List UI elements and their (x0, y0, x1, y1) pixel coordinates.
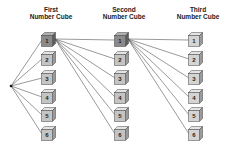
cube-3-4: 4 (189, 90, 203, 104)
branch-line (11, 86, 42, 115)
branch-line (128, 39, 189, 115)
branch-line (55, 39, 115, 59)
branch-line (128, 39, 189, 59)
cube-2-2: 2 (115, 52, 129, 66)
cube-2-5: 5 (115, 108, 129, 122)
tree-diagram: First Number Cube Second Number Cube Thi… (0, 0, 232, 149)
cube-2-1: 1 (115, 33, 129, 47)
cube-2-4: 4 (115, 90, 129, 104)
branch-line (55, 39, 115, 78)
cube-1-2: 2 (42, 52, 56, 66)
cube-3-2: 2 (189, 52, 203, 66)
cube-1-3: 3 (42, 71, 56, 85)
branch-line (128, 39, 189, 97)
cube-1-1: 1 (42, 33, 56, 47)
branch-line (55, 39, 115, 97)
cube-2-6: 6 (115, 127, 129, 141)
cube-3-5: 5 (189, 108, 203, 122)
branch-line (128, 39, 189, 134)
branch-line (55, 39, 115, 40)
branch-line (128, 39, 189, 40)
branch-line (55, 39, 115, 115)
branch-line (11, 86, 42, 97)
tree-branches: 123456123456123456 (0, 0, 232, 149)
cube-3-6: 6 (189, 127, 203, 141)
branch-line (55, 39, 115, 134)
branch-line (11, 86, 42, 134)
cube-1-4: 4 (42, 90, 56, 104)
cube-1-6: 6 (42, 127, 56, 141)
cube-3-3: 3 (189, 71, 203, 85)
cube-3-1: 1 (189, 33, 203, 47)
cube-1-5: 5 (42, 108, 56, 122)
branch-line (128, 39, 189, 78)
cube-2-3: 3 (115, 71, 129, 85)
root-point (10, 85, 13, 88)
